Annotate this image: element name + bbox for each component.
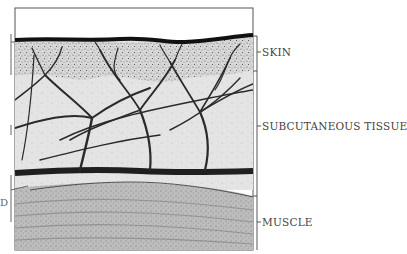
muscle-layer bbox=[15, 182, 253, 250]
dermis-layer bbox=[15, 36, 253, 82]
skin-label: SKIN bbox=[262, 47, 291, 58]
subcutaneous-tissue-label: SUBCUTANEOUS TISSUE bbox=[262, 121, 407, 132]
muscle-label: MUSCLE bbox=[262, 217, 313, 228]
left-cut-label: D bbox=[0, 198, 8, 208]
right-bracket bbox=[253, 36, 261, 250]
deep-vessel-band bbox=[15, 170, 253, 173]
